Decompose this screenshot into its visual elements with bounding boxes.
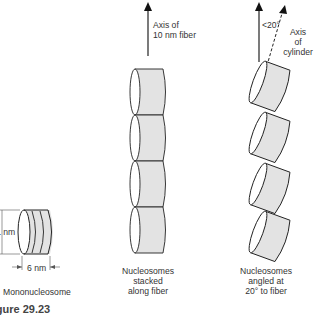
stacked-label-line2: stacked: [112, 276, 184, 286]
angled-nucleosomes: [246, 60, 293, 263]
angled-label-line2: angled at: [230, 276, 302, 286]
angled-label: Nucleosomes angled at 20° to fiber: [230, 266, 302, 296]
angled-label-line3: 20° to fiber: [230, 286, 302, 296]
stacked-label: Nucleosomes stacked along fiber: [112, 266, 184, 296]
figure-caption: Figure 29.23: [0, 303, 50, 315]
fiber-axis-label-line2: 10 nm fiber: [153, 30, 196, 40]
stacked-label-line3: along fiber: [112, 286, 184, 296]
cylinder-axis-label-line1: Axis: [281, 27, 315, 37]
height-label: 11 nm: [0, 227, 15, 237]
fiber-axis-arrow: [144, 2, 152, 56]
cylinder-axis-label-line3: cylinder: [281, 47, 315, 57]
angle-label: <20°: [262, 20, 280, 30]
width-label: 6 nm: [26, 263, 47, 273]
stacked-label-line1: Nucleosomes: [112, 266, 184, 276]
cylinder-axis-label-line2: of: [281, 37, 315, 47]
mononucleosome-shape: [18, 210, 53, 254]
stacked-nucleosomes: [130, 69, 166, 253]
angled-label-line1: Nucleosomes: [230, 266, 302, 276]
mononucleosome-label: Mononucleosome: [3, 287, 71, 297]
fiber-axis-label: Axis of 10 nm fiber: [153, 20, 196, 40]
fiber-axis-arrow-angled: [255, 2, 263, 62]
fiber-axis-label-line1: Axis of: [153, 20, 196, 30]
cylinder-axis-label: Axis of cylinder: [281, 27, 315, 57]
